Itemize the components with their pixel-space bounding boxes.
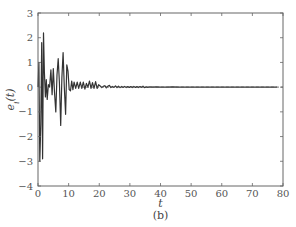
line-chart: 01020304050607080 −4−3−2−10123 t ei(t) (…: [0, 0, 296, 227]
y-tick-label: 0: [27, 82, 33, 93]
x-tick-label: 10: [62, 188, 75, 199]
y-tick-label: 2: [27, 32, 33, 43]
plot-series: [38, 33, 283, 162]
x-tick-label: 20: [93, 188, 106, 199]
x-tick-label: 70: [246, 188, 259, 199]
y-tick-label: −4: [18, 181, 33, 192]
x-tick-label: 80: [277, 188, 290, 199]
x-tick-label: 30: [124, 188, 137, 199]
y-tick-label: 1: [27, 57, 33, 68]
y-tick-label: −1: [18, 106, 33, 117]
x-tick-label: 50: [185, 188, 198, 199]
x-tick-label: 0: [35, 188, 41, 199]
figure-caption: (b): [153, 209, 169, 222]
y-tick-labels: −4−3−2−10123: [18, 8, 33, 192]
series-e-i-t-: [38, 33, 277, 162]
y-tick-label: −2: [18, 131, 33, 142]
x-tick-label: 60: [215, 188, 228, 199]
y-tick-label: 3: [27, 8, 33, 19]
axes-frame: [38, 13, 283, 186]
axis-ticks: [38, 13, 283, 186]
y-tick-label: −3: [18, 156, 33, 167]
